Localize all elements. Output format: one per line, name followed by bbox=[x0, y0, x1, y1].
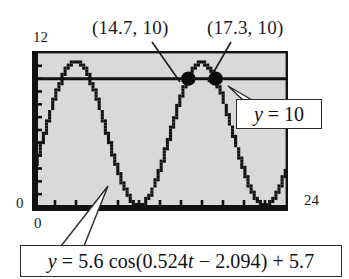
equation-text: y = 5.6 cos(0.524t − 2.094) + 5.7 bbox=[48, 250, 315, 273]
equation-lead: y bbox=[48, 250, 57, 272]
callout-box-y10: y = 10 bbox=[236, 99, 322, 129]
callout-y10-rest: = 10 bbox=[263, 103, 304, 125]
x-axis-max-label: 24 bbox=[304, 193, 319, 208]
y-axis-min-label: 0 bbox=[16, 196, 24, 211]
intersection-dot-2 bbox=[208, 71, 222, 85]
intersection-dot-1 bbox=[181, 71, 195, 85]
annotation-point-1: (14.7, 10) bbox=[92, 18, 168, 37]
equation-tail: − 2.094) + 5.7 bbox=[194, 250, 315, 272]
callout-y10-text: y = 10 bbox=[254, 103, 304, 126]
x-axis-min-label: 0 bbox=[34, 216, 42, 231]
plot-svg bbox=[0, 0, 349, 279]
y-axis-max-label: 12 bbox=[33, 30, 48, 45]
equation-body: = 5.6 cos(0.524 bbox=[57, 250, 188, 272]
figure-canvas: (14.7, 10) (17.3, 10) 12 0 0 24 y = 10 y… bbox=[0, 0, 349, 279]
annotation-point-2: (17.3, 10) bbox=[207, 18, 283, 37]
callout-box-equation: y = 5.6 cos(0.524t − 2.094) + 5.7 bbox=[20, 245, 342, 277]
